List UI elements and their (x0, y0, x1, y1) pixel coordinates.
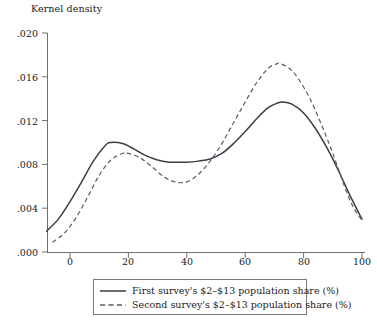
legend-label-first-survey: First survey's $2–$13 population share (… (132, 285, 339, 296)
legend-sample-dashed-icon (100, 300, 126, 310)
axis-lines (42, 33, 365, 258)
series-line-first-survey (47, 102, 362, 231)
y-axis-ticks (42, 33, 48, 252)
legend-entry-first-survey: First survey's $2–$13 population share (… (100, 283, 339, 298)
plot-area (0, 0, 377, 321)
legend: First survey's $2–$13 population share (… (93, 279, 307, 315)
legend-entry-second-survey: Second survey's $2–$13 population share … (100, 297, 351, 312)
kernel-density-chart: Kernel density .000 .004 .008 .012 .016 … (0, 0, 377, 321)
legend-sample-solid-icon (100, 286, 126, 296)
series-paths (47, 63, 362, 242)
legend-label-second-survey: Second survey's $2–$13 population share … (132, 299, 351, 310)
x-axis-ticks (70, 253, 362, 259)
